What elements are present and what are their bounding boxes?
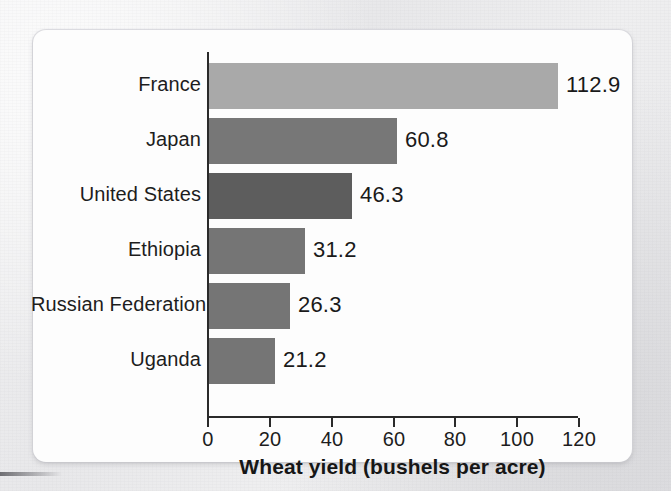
bar: [209, 228, 305, 274]
x-axis-tick: [578, 418, 580, 427]
x-axis-tick: [516, 418, 518, 427]
bar: [209, 283, 290, 329]
x-axis-tick-label: 40: [321, 428, 344, 451]
bar-chart-plot-area: FranceJapanUnited StatesEthiopiaRussian …: [33, 30, 632, 462]
category-label: Uganda: [31, 348, 201, 371]
x-axis-tick-label: 120: [562, 428, 596, 451]
bar: [209, 63, 558, 109]
bar-value-label: 60.8: [405, 127, 449, 153]
category-label: United States: [31, 183, 201, 206]
x-axis-tick-label: 0: [202, 428, 213, 451]
x-axis-tick-label: 60: [383, 428, 406, 451]
figure-card: FranceJapanUnited StatesEthiopiaRussian …: [33, 30, 632, 462]
bar-value-label: 46.3: [360, 182, 404, 208]
category-label: France: [31, 73, 201, 96]
category-label: Ethiopia: [31, 238, 201, 261]
bar-value-label: 31.2: [313, 237, 357, 263]
bar: [209, 338, 275, 384]
x-axis-tick: [454, 418, 456, 427]
bar: [209, 173, 352, 219]
category-label: Japan: [31, 128, 201, 151]
bar-value-label: 26.3: [298, 292, 342, 318]
y-axis-line: [207, 52, 209, 417]
x-axis-tick: [393, 418, 395, 427]
category-axis-labels: FranceJapanUnited StatesEthiopiaRussian …: [33, 30, 201, 462]
bar-value-label: 112.9: [566, 72, 620, 98]
bar: [209, 118, 397, 164]
x-axis-tick: [207, 418, 209, 427]
x-axis-title: Wheat yield (bushels per acre): [207, 455, 578, 479]
bar-value-label: 21.2: [283, 347, 327, 373]
x-axis-tick-label: 100: [500, 428, 534, 451]
x-axis-tick: [331, 418, 333, 427]
x-axis-tick-label: 20: [259, 428, 282, 451]
x-axis-tick-label: 80: [444, 428, 467, 451]
scan-artifact-mark: [0, 472, 62, 476]
x-axis-tick: [269, 418, 271, 427]
category-label: Russian Federation: [31, 293, 201, 316]
